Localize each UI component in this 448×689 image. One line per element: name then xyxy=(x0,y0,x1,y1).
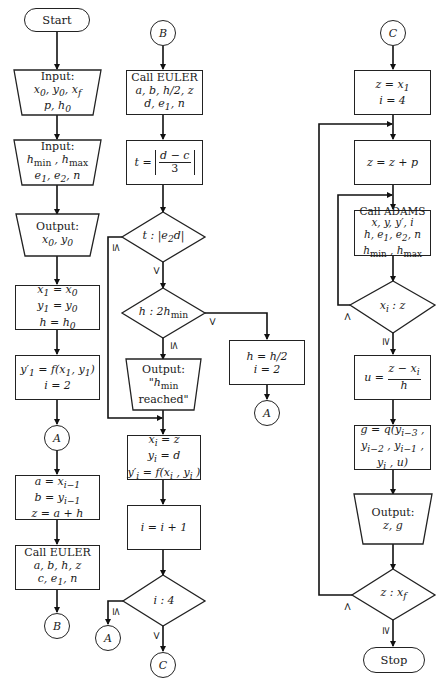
incr-process: i = i + 1 xyxy=(127,505,201,550)
init-process: x1 = x0 y1 = y0 h = h0 xyxy=(15,285,100,330)
store-line1: xi = z xyxy=(148,433,179,449)
dec-xi-text: xi : z xyxy=(350,281,435,333)
edge-label-dec-t-le: ≤ xyxy=(111,243,122,252)
dec-h-text: h : 2hmin xyxy=(122,288,205,338)
input2-title: Input: xyxy=(41,140,75,153)
dec-z-condition: z : xf xyxy=(380,586,406,602)
connector-a-label: A xyxy=(263,407,271,420)
gcalc-line3: yi , u) xyxy=(377,456,408,472)
connector-a-1: A xyxy=(44,425,70,451)
euler1-process: Call EULER a, b, h, z c, e1, n xyxy=(15,545,100,590)
euler1-title: Call EULER xyxy=(24,546,90,559)
store-line3: y′i = f(xi , yi ) xyxy=(128,466,201,482)
store-line2: yi = d xyxy=(148,449,180,465)
dec-z-text: z : xf xyxy=(352,569,435,620)
deriv-process: y′1 = f(x1, y1) i = 2 xyxy=(15,355,100,400)
out-hmin-msg1: "hmin xyxy=(149,376,179,392)
adams-process: Call ADAMS x, y, y′, i h, e1, e2, n hmin… xyxy=(354,210,431,256)
euler2-process: Call EULER a, b, h/2, z d, e1, n xyxy=(126,70,203,115)
deriv-line1: y′1 = f(x1, y1) xyxy=(20,363,95,379)
assign-line2: b = yi−1 xyxy=(35,491,81,507)
out-hmin-msg2: reached" xyxy=(138,393,188,406)
start-terminal: Start xyxy=(24,8,90,32)
output1-title: Output: xyxy=(36,220,79,233)
out-hmin-text: Output: "hmin reached" xyxy=(126,359,201,410)
assign-line3: z = a + h xyxy=(32,507,84,520)
gcalc-process: g = q(yi−3 , yi−2 , yi−1 , yi , u) xyxy=(354,425,431,470)
start-label: Start xyxy=(42,14,71,27)
tcalc-process: t = d − c3 xyxy=(126,140,203,185)
output1-vars: x0, y0 xyxy=(42,233,73,249)
ucalc-formula: u = z − xih xyxy=(364,363,420,391)
zinit-line2: i = 4 xyxy=(379,94,406,107)
gcalc-line1: g = q(yi−3 , xyxy=(360,423,424,439)
input1-node: Input: x0, y0, xf p, h0 xyxy=(14,70,101,115)
connector-c-2: C xyxy=(380,20,406,46)
edge-label-dec-xi-lt: < xyxy=(342,312,353,321)
halve-process: h = h/2 i = 2 xyxy=(229,340,305,385)
connector-a-label: A xyxy=(104,632,112,645)
dec-i-condition: i : 4 xyxy=(153,594,174,607)
connector-c-1: C xyxy=(150,652,176,678)
euler2-title: Call EULER xyxy=(131,71,197,84)
out-zg-text: Output: z, g xyxy=(354,494,432,544)
input2-node: Input: hmin , hmax e1, e2, n xyxy=(14,140,101,185)
halve-line1: h = h/2 xyxy=(246,350,287,363)
connector-c-label: C xyxy=(389,27,397,40)
edge-label-dec-i-le: ≤ xyxy=(111,607,122,616)
gcalc-line2: yi−2 , yi−1 , xyxy=(361,439,424,455)
assign-process: a = xi−1 b = yi−1 z = a + h xyxy=(15,475,100,520)
incr-line: i = i + 1 xyxy=(141,521,187,534)
adams-args2: h, e1, e2, n xyxy=(364,229,421,245)
euler1-args2: c, e1, n xyxy=(38,572,78,588)
connector-a-3: A xyxy=(254,400,280,426)
init-line1: x1 = x0 xyxy=(37,283,77,299)
zstep-process: z = z + p xyxy=(354,140,431,185)
out-zg-vars: z, g xyxy=(383,519,403,532)
dec-t-condition: t : |e2d| xyxy=(143,229,185,245)
input1-vars1: x0, y0, xf xyxy=(34,83,82,99)
edge-label-dec-h-le: ≤ xyxy=(169,341,180,350)
zinit-line1: z = x1 xyxy=(375,78,409,94)
output1-node: Output: x0, y0 xyxy=(16,214,99,256)
connector-b-label: B xyxy=(159,27,167,40)
edge-label-dec-z-lt: < xyxy=(342,602,353,611)
edge-label-dec-i-gt: > xyxy=(151,631,162,640)
connector-b-2: B xyxy=(150,20,176,46)
edge-label-dec-h-gt: > xyxy=(207,317,218,326)
ucalc-process: u = z − xih xyxy=(354,355,431,400)
dec-h-condition: h : 2hmin xyxy=(139,305,188,321)
connector-b-1: B xyxy=(44,613,70,639)
init-line2: y1 = y0 xyxy=(37,299,77,315)
stop-terminal: Stop xyxy=(363,647,425,673)
input2-vars1: hmin , hmax xyxy=(27,153,89,169)
dec-i-text: i : 4 xyxy=(123,575,205,626)
dec-xi-condition: xi : z xyxy=(380,299,406,315)
adams-args3: hmin , hmax xyxy=(363,245,422,261)
euler2-args2: d, e1, n xyxy=(144,97,184,113)
zinit-process: z = x1 i = 4 xyxy=(354,70,431,115)
out-hmin-title: Output: xyxy=(142,363,185,376)
assign-line1: a = xi−1 xyxy=(35,475,80,491)
edge-label-dec-xi-ge: ≥ xyxy=(381,337,392,346)
init-line3: h = h0 xyxy=(39,316,75,332)
dec-t-text: t : |e2d| xyxy=(122,212,205,262)
tcalc-formula: t = d − c3 xyxy=(134,150,194,175)
deriv-line2: i = 2 xyxy=(44,379,71,392)
connector-a-label: A xyxy=(53,432,61,445)
halve-line2: i = 2 xyxy=(254,363,281,376)
edge-label-dec-t-gt: > xyxy=(151,266,162,275)
out-zg-title: Output: xyxy=(372,506,415,519)
input1-title: Input: xyxy=(41,70,75,83)
euler1-args1: a, b, h, z xyxy=(34,559,81,572)
connector-a-2: A xyxy=(95,625,121,651)
euler2-args1: a, b, h/2, z xyxy=(135,84,193,97)
store-process: xi = z yi = d y′i = f(xi , yi ) xyxy=(127,435,201,480)
input1-vars2: p, h0 xyxy=(44,99,71,115)
connector-b-label: B xyxy=(53,620,61,633)
edge-label-dec-z-ge: ≥ xyxy=(381,626,392,635)
connector-c-label: C xyxy=(159,659,167,672)
stop-label: Stop xyxy=(381,654,408,667)
input2-vars2: e1, e2, n xyxy=(35,169,81,185)
zstep-line: z = z + p xyxy=(367,156,418,169)
